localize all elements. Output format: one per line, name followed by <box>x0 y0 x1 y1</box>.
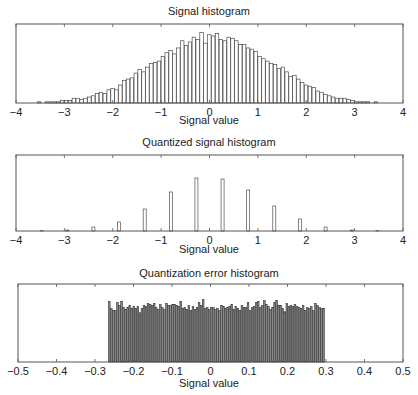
histogram-bar <box>161 56 164 103</box>
histogram-bar <box>286 304 288 363</box>
bars <box>108 299 324 362</box>
histogram-bar <box>204 43 207 103</box>
histogram-bar <box>300 83 303 103</box>
histogram-bar <box>149 305 151 362</box>
histogram-bar <box>290 306 292 362</box>
histogram-bar <box>113 311 115 362</box>
histogram-bar <box>241 306 243 362</box>
histogram-bar <box>133 307 135 362</box>
histogram-bar <box>213 308 215 362</box>
histogram-bar <box>177 48 180 103</box>
histogram-bar <box>172 305 174 362</box>
histogram-bar <box>282 309 284 362</box>
histogram-bar <box>72 98 75 103</box>
histogram-bar <box>164 310 166 362</box>
histogram-bar <box>223 41 226 103</box>
histogram-bar <box>310 307 312 362</box>
histogram-bar <box>298 308 300 362</box>
histogram-bar <box>270 310 272 362</box>
histogram-bar <box>235 307 237 362</box>
histogram-bar <box>253 307 255 362</box>
histogram-bar <box>153 304 155 363</box>
histogram-bar <box>117 302 119 362</box>
histogram-bar <box>121 301 123 362</box>
histogram-bar <box>190 311 192 362</box>
x-axis-label: Signal value <box>0 243 418 255</box>
histogram-bar <box>289 77 292 103</box>
histogram-bar <box>202 299 204 362</box>
histogram-bar <box>264 300 266 362</box>
histogram-bar <box>225 309 227 362</box>
quantized-histogram-plot: −4−3−2−101234 <box>0 130 418 260</box>
histogram-bar <box>151 306 153 362</box>
histogram-bar <box>288 307 290 362</box>
histogram-bar <box>266 61 269 103</box>
histogram-bar <box>247 302 249 362</box>
histogram-bar <box>142 72 145 103</box>
histogram-bar <box>313 311 315 362</box>
histogram-bar <box>298 219 301 231</box>
histogram-bar <box>281 67 284 103</box>
histogram-bar <box>235 41 238 103</box>
histogram-bar <box>284 312 286 362</box>
histogram-bar <box>196 40 199 103</box>
histogram-bar <box>316 91 319 103</box>
histogram-bar <box>173 54 176 103</box>
histogram-bar <box>159 305 161 362</box>
histogram-bar <box>180 301 182 362</box>
x-tick-label: −0.1 <box>161 365 183 377</box>
histogram-bar <box>274 302 276 362</box>
histogram-bar <box>251 308 253 362</box>
histogram-bar <box>206 308 208 362</box>
histogram-bar <box>302 306 304 362</box>
histogram-bar <box>215 34 218 103</box>
error-histogram-plot: −0.5−0.4−0.3−0.2−0.100.10.20.30.40.5 <box>0 260 418 395</box>
histogram-bar <box>169 50 172 103</box>
histogram-bar <box>343 98 346 103</box>
histogram-bar <box>211 36 214 103</box>
histogram-bar <box>280 306 282 362</box>
x-tick-label: 0.5 <box>395 365 410 377</box>
histogram-bar <box>196 308 198 362</box>
histogram-bar <box>239 44 242 103</box>
histogram-bar <box>259 308 261 362</box>
histogram-bar <box>269 64 272 104</box>
error-histogram-panel: Quantization error histogram −0.5−0.4−0.… <box>0 260 418 395</box>
histogram-bar <box>135 309 137 362</box>
histogram-bar <box>278 306 280 362</box>
histogram-bar <box>262 306 264 362</box>
histogram-bar <box>127 308 129 362</box>
histogram-bar <box>146 67 149 103</box>
histogram-bar <box>315 304 317 363</box>
histogram-bar <box>122 80 125 103</box>
histogram-bar <box>221 306 223 362</box>
histogram-bar <box>174 305 176 362</box>
histogram-bar <box>111 309 113 362</box>
histogram-bar <box>237 309 239 362</box>
histogram-bar <box>223 307 225 362</box>
histogram-bar <box>321 309 323 362</box>
histogram-bar <box>272 308 274 362</box>
histogram-bar <box>76 98 79 103</box>
histogram-bar <box>184 46 187 103</box>
histogram-bar <box>188 42 191 103</box>
histogram-bar <box>129 306 131 362</box>
histogram-bar <box>297 79 300 103</box>
axes-frame <box>16 155 403 231</box>
histogram-bar <box>219 40 222 103</box>
histogram-bar <box>221 179 224 231</box>
histogram-bar <box>245 308 247 362</box>
histogram-bar <box>208 310 210 362</box>
histogram-bar <box>250 49 253 103</box>
histogram-bar <box>153 62 156 103</box>
histogram-bar <box>246 48 249 103</box>
histogram-bar <box>186 310 188 362</box>
histogram-bar <box>211 308 213 362</box>
histogram-bar <box>162 308 164 362</box>
histogram-bar <box>242 44 245 103</box>
histogram-bar <box>273 206 276 231</box>
histogram-bar <box>227 308 229 362</box>
histogram-bar <box>233 310 235 362</box>
histogram-bar <box>339 98 342 103</box>
x-tick-label: −0.3 <box>84 365 106 377</box>
